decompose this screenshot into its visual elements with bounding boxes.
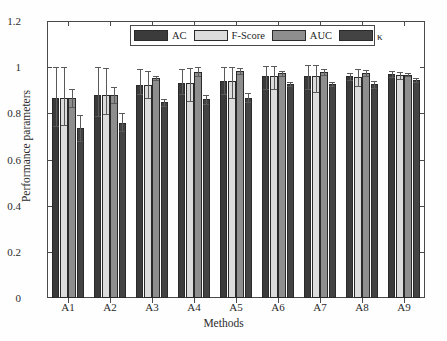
legend-entry-ac: AC: [134, 26, 194, 45]
error-bar-cap-lower: [195, 76, 201, 77]
bar-A2-F-Score: [102, 95, 109, 298]
bar-A7-F-Score: [312, 76, 319, 298]
y-tick-label: 0.8: [0, 107, 21, 119]
error-bar-cap-upper: [95, 67, 101, 68]
bar-A5-F-Score: [228, 81, 235, 298]
error-bar-cap-lower: [77, 141, 83, 142]
error-bar-line: [248, 93, 249, 102]
legend-entry-auc: AUC: [272, 26, 339, 45]
error-bar-line: [122, 113, 123, 131]
error-bar-cap-lower: [347, 80, 353, 81]
error-bar-cap-upper: [355, 69, 361, 70]
error-bar-line: [140, 69, 141, 95]
error-bar-cap-upper: [363, 70, 369, 71]
error-bar-cap-lower: [371, 88, 377, 89]
legend-label: F-Score: [232, 30, 265, 41]
error-bar-line: [182, 69, 183, 94]
error-bar-cap-upper: [397, 72, 403, 73]
error-bar-cap-upper: [329, 82, 335, 83]
x-tick-mark: [236, 298, 237, 303]
error-bar-cap-lower: [145, 98, 151, 99]
x-tick-mark: [68, 298, 69, 303]
bar-A2-AC: [94, 95, 101, 298]
bar-A3-F-Score: [144, 85, 151, 298]
error-bar-cap-upper: [237, 68, 243, 69]
error-bar-cap-upper: [187, 68, 193, 69]
error-bar-line: [358, 69, 359, 86]
y-tick-mark-right: [420, 113, 425, 114]
legend-swatch-icon: [272, 30, 306, 41]
error-bar-cap-lower: [271, 89, 277, 90]
error-bar-line: [106, 68, 107, 115]
error-bar-cap-lower: [153, 80, 159, 81]
error-bar-cap-lower: [263, 89, 269, 90]
bar-A7-κ: [329, 84, 336, 298]
error-bar-line: [148, 71, 149, 99]
y-tick-mark-right: [420, 67, 425, 68]
bar-A4-AC: [178, 83, 185, 298]
error-bar-cap-lower: [389, 77, 395, 78]
error-bar-cap-upper: [195, 67, 201, 68]
bar-A3-AC: [136, 85, 143, 298]
error-bar-cap-upper: [313, 65, 319, 66]
error-bar-cap-upper: [69, 89, 75, 90]
error-bar-line: [64, 67, 65, 125]
error-bar-cap-upper: [203, 95, 209, 96]
error-bar-cap-lower: [405, 76, 411, 77]
error-bar-cap-lower: [355, 86, 361, 87]
error-bar-cap-lower: [111, 103, 117, 104]
x-tick-mark: [404, 298, 405, 303]
error-bar-cap-upper: [221, 67, 227, 68]
error-bar-cap-upper: [53, 67, 59, 68]
bar-A5-κ: [245, 98, 252, 298]
error-bar-line: [190, 68, 191, 101]
legend-entry-f-score: F-Score: [194, 26, 272, 45]
bar-A5-AC: [220, 81, 227, 298]
legend-label: κ: [377, 30, 383, 42]
error-bar-cap-upper: [179, 69, 185, 70]
y-tick-mark-right: [420, 160, 425, 161]
bar-A1-AC: [52, 98, 59, 298]
error-bar-line: [224, 67, 225, 94]
bar-A6-AC: [262, 76, 269, 298]
error-bar-cap-upper: [245, 93, 251, 94]
error-bar-cap-upper: [229, 67, 235, 68]
error-bar-cap-upper: [111, 87, 117, 88]
error-bar-line: [266, 66, 267, 89]
bar-A3-AUC: [152, 78, 159, 298]
error-bar-cap-lower: [137, 94, 143, 95]
error-bar-cap-lower: [221, 94, 227, 95]
error-bar-cap-upper: [61, 67, 67, 68]
x-tick-mark: [110, 298, 111, 303]
error-bar-cap-upper: [161, 99, 167, 100]
error-bar-cap-lower: [313, 92, 319, 93]
y-tick-mark: [47, 252, 52, 253]
bar-A8-AUC: [362, 73, 369, 298]
legend-swatch-icon: [134, 30, 168, 41]
legend-label: AC: [172, 30, 187, 41]
x-tick-mark-top: [404, 21, 405, 26]
error-bar-line: [98, 67, 99, 115]
bar-A6-κ: [287, 84, 294, 298]
error-bar-cap-lower: [305, 89, 311, 90]
error-bar-cap-lower: [61, 125, 67, 126]
error-bar-cap-lower: [95, 116, 101, 117]
error-bar-cap-upper: [271, 66, 277, 67]
error-bar-cap-lower: [53, 126, 59, 127]
y-tick-mark-right: [420, 252, 425, 253]
error-bar-line: [374, 81, 375, 89]
bar-A4-AUC: [194, 72, 201, 298]
error-bar-cap-lower: [229, 98, 235, 99]
error-bar-line: [308, 65, 309, 89]
y-tick-label: 1.2: [0, 15, 21, 27]
error-bar-cap-lower: [103, 114, 109, 115]
y-tick-mark: [47, 206, 52, 207]
error-bar-cap-upper: [405, 73, 411, 74]
bar-A2-κ: [119, 123, 126, 298]
bar-A6-AUC: [278, 73, 285, 298]
error-bar-cap-lower: [287, 86, 293, 87]
x-tick-mark: [362, 298, 363, 303]
error-bar-cap-lower: [413, 82, 419, 83]
error-bar-line: [206, 95, 207, 104]
y-tick-label: 0: [0, 292, 21, 304]
